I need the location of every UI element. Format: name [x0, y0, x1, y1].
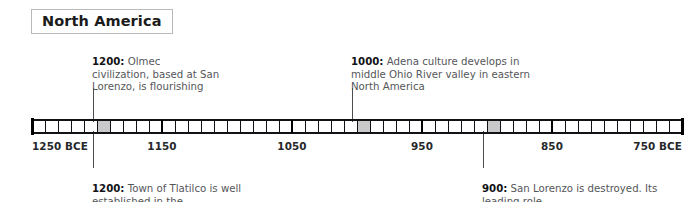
axis-tick-minor — [58, 120, 59, 133]
axis-tick-minor — [656, 120, 657, 133]
axis-tick-minor — [149, 120, 150, 133]
axis-tick-minor — [643, 120, 644, 133]
axis-tick-minor — [175, 120, 176, 133]
event-annotation-adena: 1000: Adena culture develops in middle O… — [351, 44, 547, 94]
axis-tick-minor — [240, 120, 241, 133]
axis-tick-major — [161, 120, 163, 133]
axis-tick-minor — [305, 120, 306, 133]
axis-tick-minor — [630, 120, 631, 133]
axis-tick-minor — [344, 120, 345, 133]
axis-tick-minor — [331, 120, 332, 133]
axis-tick-minor — [383, 120, 384, 133]
event-year-san-lorenzo: 900 — [482, 183, 503, 194]
axis-tick-minor — [123, 120, 124, 133]
axis-tick-minor — [71, 120, 72, 133]
axis-label-1050: 1050 — [277, 140, 306, 152]
axis-marker-cell-1200[interactable] — [97, 121, 110, 132]
axis-label-950: 950 — [411, 140, 433, 152]
axis-tick-minor — [539, 120, 540, 133]
axis-tick-minor — [409, 120, 410, 133]
leader-line-tlatilco — [93, 131, 94, 168]
axis-tick-minor — [227, 120, 228, 133]
axis-tick-minor — [526, 120, 527, 133]
axis-tick-minor — [604, 120, 605, 133]
leader-line-olmec — [93, 88, 94, 122]
axis-tick-minor — [45, 120, 46, 133]
axis-tick-minor — [110, 120, 111, 133]
event-annotation-san-lorenzo-destroyed: 900: San Lorenzo is destroyed. Its leadi… — [482, 171, 662, 202]
axis-tick-end — [31, 118, 34, 135]
axis-tick-minor — [214, 120, 215, 133]
region-title: North America — [42, 14, 162, 29]
axis-label-750: 750 BCE — [633, 140, 682, 152]
axis-tick-minor — [253, 120, 254, 133]
axis-label-1250: 1250 BCE — [32, 140, 88, 152]
axis-tick-minor — [266, 120, 267, 133]
axis-tick-minor — [396, 120, 397, 133]
axis-tick-minor — [201, 120, 202, 133]
axis-label-1150: 1150 — [147, 140, 176, 152]
timeline-panel: North America 1200: Olmec civilization, … — [0, 0, 696, 202]
axis-tick-minor — [617, 120, 618, 133]
event-year-adena: 1000 — [351, 56, 379, 67]
axis-tick-minor — [136, 120, 137, 133]
axis-tick-minor — [565, 120, 566, 133]
leader-line-adena — [352, 88, 353, 122]
axis-tick-minor — [188, 120, 189, 133]
axis-tick-minor — [500, 120, 501, 133]
leader-line-san-lorenzo — [483, 131, 484, 168]
axis-marker-cell-900[interactable] — [487, 121, 500, 132]
event-annotation-tlatilco: 1200: Town of Tlatilco is well establish… — [92, 171, 282, 202]
axis-tick-minor — [448, 120, 449, 133]
axis-tick-minor — [279, 120, 280, 133]
axis-tick-minor — [578, 120, 579, 133]
axis-tick-minor — [435, 120, 436, 133]
axis-tick-minor — [97, 120, 98, 133]
axis-marker-cell-1000[interactable] — [357, 121, 370, 132]
timeline-axis[interactable] — [32, 119, 682, 134]
event-text-san-lorenzo: San Lorenzo is destroyed. Its leading ro… — [482, 183, 657, 202]
axis-tick-major — [421, 120, 423, 133]
axis-tick-minor — [461, 120, 462, 133]
axis-tick-minor — [487, 120, 488, 133]
axis-tick-minor — [318, 120, 319, 133]
axis-tick-major — [291, 120, 293, 133]
axis-tick-minor — [474, 120, 475, 133]
region-header-box: North America — [31, 9, 173, 34]
axis-tick-minor — [513, 120, 514, 133]
axis-tick-minor — [370, 120, 371, 133]
axis-label-850: 850 — [541, 140, 563, 152]
axis-tick-minor — [357, 120, 358, 133]
event-year-tlatilco: 1200 — [92, 183, 120, 194]
axis-tick-end — [681, 118, 684, 135]
axis-tick-minor — [669, 120, 670, 133]
axis-tick-minor — [591, 120, 592, 133]
axis-tick-minor — [84, 120, 85, 133]
event-year-olmec: 1200 — [92, 56, 120, 67]
axis-tick-major — [551, 120, 553, 133]
event-annotation-olmec: 1200: Olmec civilization, based at San L… — [92, 44, 220, 94]
